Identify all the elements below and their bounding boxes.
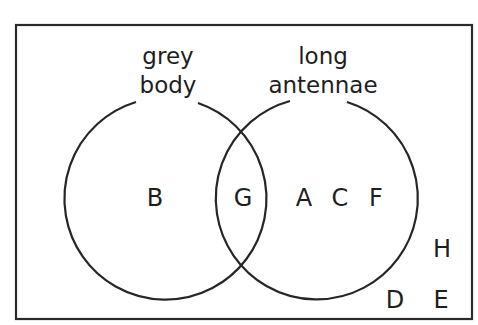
member-F: F — [369, 184, 383, 212]
long-antennae-label-line1: long — [298, 43, 348, 69]
universal-set-frame — [16, 25, 472, 319]
member-E: E — [433, 286, 448, 314]
member-H: H — [433, 235, 451, 263]
grey-body-label-line2: body — [140, 72, 197, 98]
member-D: D — [386, 286, 404, 314]
long-antennae-label-line2: antennae — [268, 72, 377, 98]
venn-diagram: grey body long antennae B G A C F H D E — [0, 0, 478, 325]
grey-body-label-line1: grey — [142, 43, 193, 69]
member-A: A — [296, 184, 313, 212]
member-G: G — [234, 184, 253, 212]
member-C: C — [332, 184, 349, 212]
member-B: B — [147, 184, 163, 212]
